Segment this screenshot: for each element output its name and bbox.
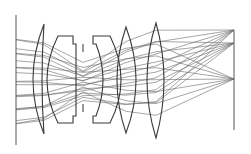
ray-bundles [16,30,234,124]
light-ray [16,53,234,79]
lens-ray-diagram [0,0,251,154]
lens-elements [33,23,164,138]
lens-element-2 [47,36,76,123]
light-ray [16,77,234,81]
light-ray [16,79,234,95]
light-ray [16,79,234,123]
light-ray [16,30,234,124]
lens-element-5 [147,23,164,138]
